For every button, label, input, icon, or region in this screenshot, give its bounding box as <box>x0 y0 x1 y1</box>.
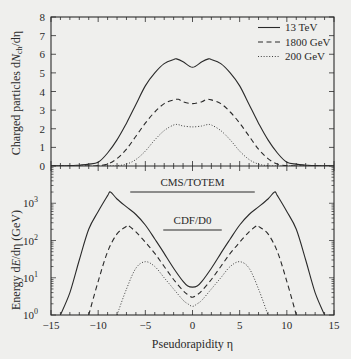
y-tick-label: 3 <box>40 104 46 116</box>
bottom-y-axis-label: Energy dE/dη (GeV) <box>9 210 23 310</box>
y-tick-label: 103 <box>23 195 38 209</box>
y-tick-label: 102 <box>23 233 38 247</box>
x-tick-label: 5 <box>237 319 243 331</box>
experiment-annotations: CMS/TOTEMCDF/D0 <box>130 176 255 230</box>
y-tick-label: 2 <box>40 123 46 135</box>
legend-label: 13 TeV <box>285 21 317 33</box>
legend: 13 TeV1800 GeV200 GeV <box>258 21 331 62</box>
x-axis-label: Pseudorapidity η <box>152 337 233 351</box>
y-tick-label: 8 <box>40 11 46 23</box>
series-dotted-line <box>117 262 268 315</box>
annotation-label: CMS/TOTEM <box>161 176 225 188</box>
annotation-label: CDF/D0 <box>174 214 212 226</box>
legend-label: 200 GeV <box>285 50 325 62</box>
figure: −15−10−5051015012345678100101102103 Char… <box>0 0 351 359</box>
y-tick-label: 1 <box>40 141 46 153</box>
top-y-axis-label: Charged particles dNch/dη <box>9 31 24 155</box>
x-tick-label: −10 <box>90 319 108 331</box>
series-dashed-line <box>51 99 334 166</box>
legend-label: 1800 GeV <box>285 36 331 48</box>
x-tick-label: 15 <box>329 319 341 331</box>
y-tick-label: 4 <box>40 86 46 98</box>
charged-particles-panel <box>51 59 334 166</box>
energy-panel <box>60 192 324 315</box>
y-tick-label: 6 <box>40 48 46 60</box>
x-tick-label: 0 <box>190 319 196 331</box>
y-tick-label: 100 <box>23 307 38 321</box>
series-solid-line <box>60 192 324 315</box>
series-dashed-line <box>89 225 297 315</box>
x-tick-label: −15 <box>42 319 60 331</box>
y-tick-label: 0 <box>40 160 46 172</box>
y-tick-label: 5 <box>40 67 46 79</box>
x-tick-label: −5 <box>139 319 151 331</box>
y-tick-label: 7 <box>40 30 46 42</box>
series-solid-line <box>51 59 334 166</box>
x-tick-label: 10 <box>281 319 293 331</box>
y-tick-label: 101 <box>23 270 38 284</box>
series-dotted-line <box>51 124 334 166</box>
